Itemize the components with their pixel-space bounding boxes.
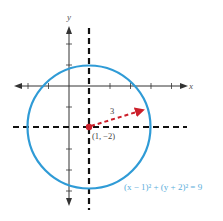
center-label: (1, −2) [92, 131, 115, 141]
circle-equation: (x − 1)² + (y + 2)² = 9 [124, 182, 202, 192]
radius-label: 3 [110, 106, 114, 116]
y-axis-label: y [67, 12, 71, 22]
radius-arrow [91, 110, 143, 126]
x-axis-label: x [189, 81, 193, 91]
center-point [86, 124, 92, 130]
y-axis [66, 26, 72, 206]
